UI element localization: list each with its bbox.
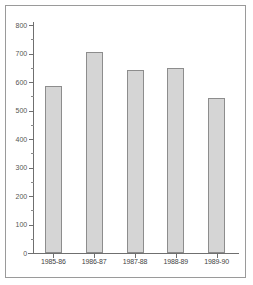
x-axis-tick-label: 1989-90 [197, 258, 237, 266]
y-axis-tick-label-text: 800 [3, 22, 27, 29]
y-axis-tick-label-text: 500 [3, 107, 27, 114]
y-axis-tick-label: 0 [0, 250, 27, 257]
y-axis-tick [29, 253, 34, 254]
y-axis-tick-label-text: 300 [3, 164, 27, 171]
bar [86, 52, 103, 253]
plot-area [33, 25, 237, 253]
y-axis-tick-label-text: 400 [3, 136, 27, 143]
x-axis-line [28, 253, 239, 254]
x-axis-tick-label: 1986-87 [74, 258, 114, 266]
x-axis-tick-label: 1988-89 [156, 258, 196, 266]
y-axis-tick-label: 100 [0, 221, 27, 228]
bar [208, 98, 225, 253]
x-axis-tick-label: 1985-86 [33, 258, 73, 266]
bar [127, 70, 144, 253]
y-axis-tick-label-text: 200 [3, 193, 27, 200]
y-axis-tick-label-text: 600 [3, 79, 27, 86]
y-axis-tick-label: 200 [0, 193, 27, 200]
y-axis-tick-label: 400 [0, 136, 27, 143]
y-axis-tick-label-text: 0 [3, 250, 27, 257]
bar [167, 68, 184, 253]
y-axis-tick-label-text: 700 [3, 50, 27, 57]
y-axis-tick-label: 800 [0, 22, 27, 29]
y-axis-tick-label: 700 [0, 50, 27, 57]
y-axis-tick-label: 500 [0, 107, 27, 114]
x-axis-tick-label: 1987-88 [115, 258, 155, 266]
y-axis-tick-label: 300 [0, 164, 27, 171]
bar [45, 86, 62, 253]
chart-figure: 0100200300400500600700800 1985-861986-87… [0, 0, 253, 285]
y-axis-tick-label: 600 [0, 79, 27, 86]
y-axis-tick-label-text: 100 [3, 221, 27, 228]
